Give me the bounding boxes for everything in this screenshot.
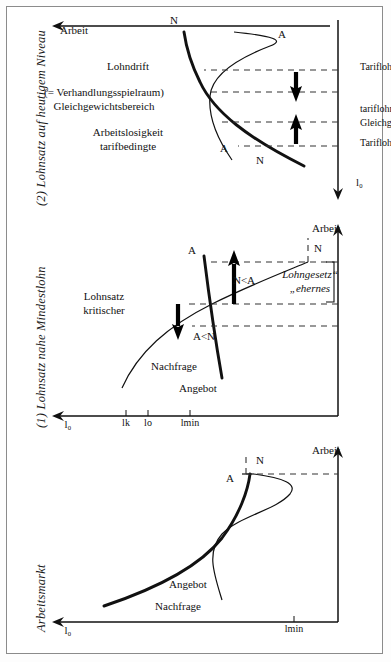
tick-label-tariflohn1: Tariflohn l₁	[360, 61, 391, 72]
label-lohndrift: Lohndrift	[106, 60, 148, 72]
panel-lohnsatz-auf-heutigem-niveau: (2) Lohnsatz auf heutigem Niveau	[8, 10, 382, 222]
tick-label-lo: lo	[144, 417, 152, 428]
rotated-figure-canvas: Arbeitsmarkt	[8, 10, 382, 650]
label-nachfrage: Nachfrage	[155, 600, 201, 612]
y-axis-label-panel2: l₀	[356, 176, 363, 188]
label-curve-a: A	[226, 472, 234, 484]
panel-arbeitsmarkt-plot: Nachfrage Angebot A N lmin l₀ Arbeit	[8, 444, 382, 650]
label-lohnsatz: Lohnsatz	[83, 290, 123, 302]
x-axis-label-panel2: Arbeit	[60, 24, 88, 36]
tick-label-lmin: lmin	[180, 417, 198, 428]
label-curve-a: A	[188, 244, 196, 256]
panel-lohnsatz-nahe-mindestlohn: (1) Lohnsatz nahe Mindestlohn	[8, 222, 382, 444]
arrow-tarifbedingte-arbeitslosigkeit	[290, 114, 302, 144]
demand-curve-thick	[204, 256, 222, 378]
tick-label-lmin: lmin	[284, 623, 302, 634]
label-a-less-n: A<N	[192, 330, 214, 342]
y-axis-label-arbeitsmarkt: l₀	[64, 624, 71, 636]
label-nachfrage: Nachfrage	[151, 360, 197, 372]
N-curve-thick	[184, 32, 304, 166]
panel-lohnsatz-nahe-mindestlohn-plot: Angebot Nachfrage A<N N<A kritischer Loh…	[8, 222, 382, 444]
label-arbeitslosigkeit: Arbeitslosigkeit	[92, 126, 162, 138]
label-curve-n-right: N	[170, 14, 178, 26]
y-axis-label-panel1: l₀	[64, 418, 71, 430]
label-tarifbedingte: tarifbedingte	[99, 140, 155, 152]
tick-label-tariflohn-second-line: tariflohn	[360, 103, 391, 114]
A-curve-thin	[209, 32, 276, 160]
label-n-less-a: N<A	[232, 274, 254, 286]
label-curve-n: N	[314, 242, 322, 254]
label-kritischer: kritischer	[83, 304, 125, 316]
label-ehernes: „ehernes	[289, 282, 329, 294]
arrow-lohndrift	[290, 72, 302, 102]
label-curve-a-bottom: A	[278, 28, 286, 40]
label-gleichgewichtsbereich: Gleichgewichtsbereich	[53, 100, 154, 112]
figure-page: Arbeitsmarkt	[0, 0, 391, 662]
label-curve-a-left: A	[220, 142, 228, 154]
figure-frame: Arbeitsmarkt	[6, 6, 383, 654]
tick-label-gleichgewichts: Gleichgewichts-	[360, 117, 391, 128]
label-verhandlungsspielraum: (= Verhandlungsspielraum)	[44, 86, 164, 99]
label-curve-n-left: N	[256, 154, 264, 166]
label-angebot: Angebot	[169, 578, 207, 590]
panel-lohnsatz-auf-heutigem-niveau-plot: tarifbedingte Arbeitslosigkeit Gleichgew…	[8, 10, 382, 222]
tick-label-tariflohn2: Tariflohn l₂	[360, 137, 391, 148]
label-lohngesetz: Lohngesetz“	[281, 268, 338, 280]
panel-arbeitsmarkt: Arbeitsmarkt	[8, 444, 382, 650]
x-axis-label-panel1: Arbeit	[311, 222, 339, 234]
x-axis-label-arbeitsmarkt: Arbeit	[311, 444, 339, 456]
label-angebot: Angebot	[179, 382, 217, 394]
label-curve-n: N	[256, 454, 264, 466]
tick-label-lk: lk	[122, 417, 130, 428]
